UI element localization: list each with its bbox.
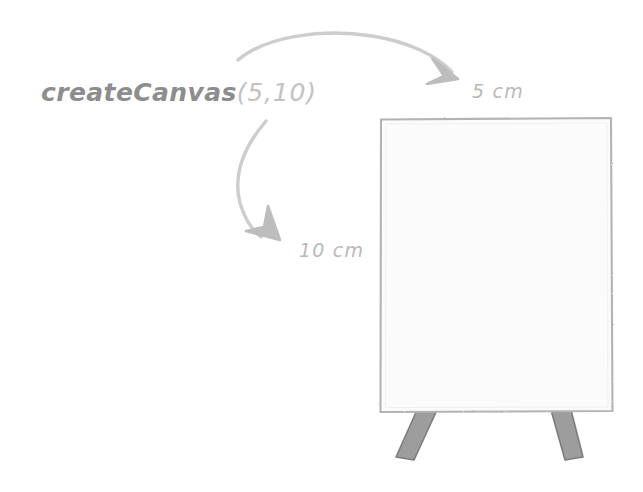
easel-leg-left [396, 410, 437, 460]
arrow-height-shaft [238, 121, 266, 237]
code-arguments: (5,10) [237, 78, 317, 107]
arrow-to-height-label [238, 121, 280, 240]
arrow-height-head [246, 206, 280, 240]
illustration-canvas: createCanvas(5,10) 5 cm 10 cm [0, 0, 643, 492]
code-function-name: createCanvas [41, 78, 237, 107]
canvas-board-group [381, 118, 613, 412]
canvas-board-rect [381, 118, 613, 412]
easel-leg-right [551, 410, 583, 460]
height-dimension-label: 10 cm [299, 239, 364, 261]
arrow-width-shaft [238, 33, 452, 72]
code-label: createCanvas(5,10) [41, 78, 317, 107]
easel-legs-group [396, 410, 583, 460]
arrow-to-width-label [238, 33, 458, 84]
width-dimension-label: 5 cm [472, 80, 524, 102]
